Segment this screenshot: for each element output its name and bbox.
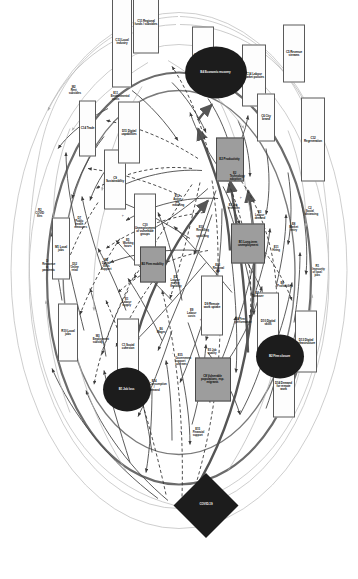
node-label: E3 Labour demand [255,211,265,220]
node-n11[interactable]: C11 Regional funds / subsidies [133,0,159,53]
node-label: B2 Firm closure [269,355,290,358]
node-t06[interactable]: E13 Regional aid [212,245,224,291]
node-label: B1 Job loss [119,388,135,391]
node-label: E2 Technology adoption [230,172,240,181]
node-t13[interactable]: E15 Government support schemes [174,331,186,387]
node-t25[interactable]: D12 Online retail [69,244,81,290]
node-label: E8 Profitability [277,281,287,287]
node-label: E6 Wages [156,327,166,333]
node-n06[interactable]: R10 Local jobs [58,303,78,361]
node-t12[interactable]: E3 Job quality [206,329,218,373]
node-t28[interactable]: R2 COVID files [34,190,46,236]
node-n07[interactable]: C12 Regeneration [301,97,325,181]
svg-text:+: + [179,430,184,433]
node-t11[interactable]: E1 Labour supply [121,278,133,326]
node-n02[interactable]: C14 Trade [80,100,97,156]
node-label: C12 Regeneration [302,136,324,142]
node-t19[interactable]: E11 Hiring [270,229,282,267]
node-t01[interactable]: E11 Environmental costs [110,67,122,125]
node-n12[interactable]: C6 City brand [257,93,275,141]
node-label: E7 Turnover [252,291,262,297]
node-t09[interactable]: E9 Labour costs [186,289,198,337]
node-label: E9 Labour costs [187,309,197,318]
node-label: E14 Consumption / demand [149,379,159,391]
node-t15[interactable]: E15 Financial support [192,407,204,457]
node-t20[interactable]: E8 Market entry [288,205,300,249]
node-label: C8 Vulnerable populations, esp. migrants [196,375,230,384]
node-label: C1 Social cohesion [118,343,138,349]
node-label: E8 Market entry [289,223,299,232]
node-label: D7 Public health measures [74,216,84,228]
node-t21[interactable]: E3 Labour demand [254,192,266,238]
node-label: E1 Job retention [228,203,238,209]
node-t26[interactable]: D7 Public health measures [73,197,85,247]
node-label: E3 Job quality [207,348,217,354]
node-label: D Response to pandemic [42,259,52,271]
node-t23[interactable]: M3 Employment subsidy [92,313,104,365]
node-e02[interactable]: B2 Firm closure [256,334,304,378]
node-label: E13 Regional aid [213,264,223,273]
node-label: B3 Firm mobility [142,263,164,266]
node-label: C5 Revenue streams [284,50,304,56]
node-label: C6 City brand [258,114,274,120]
node-label: E10 Reskilling / upskilling [196,225,206,237]
node-label: D14 Demand for remote work [274,382,294,391]
node-label: B4 Economic recovery [201,70,231,73]
node-t30[interactable]: C2 Social distancing [304,187,316,235]
node-label: E15 Government support schemes [175,353,185,365]
svg-text:+: + [121,214,126,217]
node-label: C10 Unemployment of vulnerable groups [135,223,155,235]
node-label: M3 Employment subsidy [93,335,103,344]
node-n09[interactable]: C5 Revenue streams [283,24,305,82]
node-t10[interactable]: E6 Wages [155,311,167,349]
node-label: C14 Trade [81,126,94,129]
node-t05[interactable]: E10 Reskilling / upskilling [195,203,207,259]
node-label: M1 Local jobs [53,245,69,251]
node-t07[interactable]: E1 Labour market flexibility [169,253,181,309]
node-label: C2 Social distancing [305,207,315,216]
node-e03[interactable]: B1 Job loss [103,367,151,411]
node-h03[interactable]: B3 Firm mobility [140,246,166,282]
node-label: E5 Working hours [123,239,133,248]
diagram-stage: + + - + - + + - + + C13 Local industryC1… [0,0,358,579]
svg-text:-: - [161,168,166,170]
svg-text:-: - [229,284,234,286]
node-label: C13 Local industry [113,38,131,44]
node-label: E12 Active job matching [172,194,182,206]
node-label: B1 Long-term unemployment [232,240,264,246]
node-label: D12 Online retail [70,263,80,272]
node-label: M2 Rent subsidies [69,86,79,95]
node-label: COVID-19 [199,503,212,506]
node-t18[interactable]: E8 Profitability [276,263,288,305]
node-t08[interactable]: E5 Working hours [122,219,134,267]
node-label: R10 Local jobs [59,329,77,335]
node-label: E11 Hiring [271,245,281,251]
node-t27[interactable]: R1 Insecurity of local jobs [311,244,323,296]
node-label: R1 Insecurity of local jobs [312,264,322,276]
node-t02[interactable]: M2 Rent subsidies [68,67,80,113]
node-label: E4 Firm performance [235,317,245,323]
node-t17[interactable]: E7 Turnover [251,274,263,314]
node-label: E15 Financial support [193,428,203,437]
node-t16[interactable]: E4 Firm performance [234,297,246,343]
node-t14[interactable]: E14 Consumption / demand [148,359,160,411]
node-label: C11 Regional funds / subsidies [134,19,158,25]
node-t24[interactable]: M2 Digital skills support [100,239,112,289]
node-e01[interactable]: B4 Economic recovery [185,46,247,98]
node-label: E1 Labour market flexibility [170,275,180,287]
node-label: E11 Environmental costs [111,92,121,101]
node-label: D10 Digital skills [258,319,278,325]
node-label: E1 Labour supply [122,298,132,307]
node-t29[interactable]: D Response to pandemic [41,240,53,290]
node-label: D11 Digital capabilities [119,129,139,135]
node-t22[interactable]: E1 Job retention [227,184,239,228]
node-label: R2 COVID files [35,209,45,218]
node-label: M2 Digital skills support [101,258,111,270]
node-label: C9 Sustainability [105,176,125,182]
node-label: D9 Remote work uptake [202,302,222,308]
diagram-canvas: + + - + - + + - + + C13 Local industryC1… [0,0,358,579]
node-t04[interactable]: E12 Active job matching [171,172,183,228]
